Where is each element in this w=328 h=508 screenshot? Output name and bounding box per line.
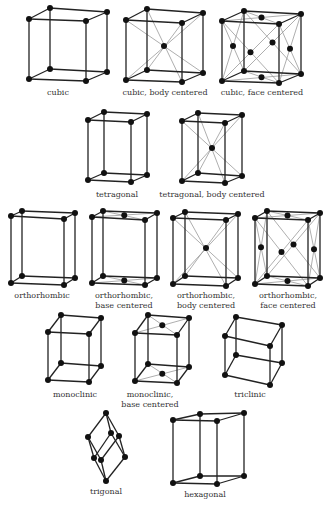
label-hexagonal: hexagonal <box>184 490 226 500</box>
lattice-point <box>72 275 78 281</box>
lattice-point <box>222 180 228 186</box>
lattice-point <box>122 454 128 460</box>
lattice-point <box>241 8 247 14</box>
lattice-point <box>145 312 151 318</box>
label-orthorhombic-base: orthorhombic,base centered <box>95 291 153 311</box>
lattice-point <box>305 283 311 289</box>
lattice-point <box>235 211 241 217</box>
lattice-point <box>128 119 134 125</box>
lattice-point <box>103 410 109 416</box>
label-cubic: cubic <box>47 88 69 98</box>
lattice-point <box>170 281 176 287</box>
lattice-point <box>104 69 110 75</box>
lattice-point <box>170 417 176 423</box>
lattice-point <box>8 280 14 286</box>
unit-cell-tetragonal-bcc <box>179 110 245 186</box>
lattice-point <box>270 40 276 46</box>
lattice-point <box>142 282 148 288</box>
lattice-point <box>276 21 282 27</box>
lattice-point <box>145 361 151 367</box>
lattice-point <box>86 331 92 337</box>
lattice-point <box>8 213 14 219</box>
lattice-point <box>222 372 228 378</box>
lattice-point <box>19 273 25 279</box>
lattice-point <box>142 217 148 223</box>
lattice-point <box>128 179 134 185</box>
lattice-point <box>267 343 273 349</box>
unit-cell-monoclinic <box>45 312 104 385</box>
lattice-point <box>154 210 160 216</box>
lattice-point <box>222 333 228 339</box>
lattice-point <box>298 71 304 77</box>
lattice-point <box>144 111 150 117</box>
lattice-point <box>264 208 270 214</box>
lattice-point <box>170 215 176 221</box>
unit-cell-orthorhombic-base <box>89 208 160 288</box>
lattice-point <box>98 457 104 463</box>
lattice-point <box>241 473 247 479</box>
lattice-point <box>235 275 241 281</box>
lattice-point <box>239 112 245 118</box>
lattice-point <box>298 11 304 17</box>
lattice-point <box>98 363 104 369</box>
label-orthorhombic-face: orthorhombic,face centered <box>259 291 317 311</box>
unit-cell-orthorhombic-face <box>252 208 323 289</box>
lattice-point <box>259 15 265 21</box>
lattice-point <box>154 275 160 281</box>
lattice-point <box>279 249 285 255</box>
lattice-point <box>276 80 282 86</box>
lattice-point <box>45 377 51 383</box>
unit-cell-orthorhombic <box>8 208 78 288</box>
lattice-point <box>317 275 323 281</box>
lattice-point <box>132 378 138 384</box>
unit-cell-cubic-fcc <box>219 8 304 86</box>
lattice-point <box>285 213 291 219</box>
lattice-point <box>100 273 106 279</box>
lattice-point <box>214 418 220 424</box>
lattice-point <box>179 20 185 26</box>
lattice-point <box>58 360 64 366</box>
lattice-point <box>85 117 91 123</box>
lattice-point <box>132 330 138 336</box>
lattice-point <box>100 208 106 214</box>
lattice-point <box>214 481 220 487</box>
lattice-point <box>279 360 285 366</box>
label-tetragonal: tetragonal <box>96 190 138 200</box>
unit-cell-cubic-bcc <box>123 6 206 85</box>
lattice-point <box>219 18 225 24</box>
lattice-point <box>123 17 129 23</box>
lattice-point <box>159 371 165 377</box>
lattice-point <box>144 6 150 12</box>
lattice-point <box>223 217 229 223</box>
lattice-point <box>144 67 150 73</box>
lattice-point <box>291 242 297 248</box>
lattice-point <box>45 329 51 335</box>
lattice-point <box>197 411 203 417</box>
bravais-lattice-diagram <box>0 0 328 508</box>
lattice-point <box>72 210 78 216</box>
lattice-point <box>248 49 254 55</box>
lattice-point <box>179 118 185 124</box>
lattice-point <box>174 380 180 386</box>
lattice-point <box>170 480 176 486</box>
label-monoclinic-base: monoclinic,base centered <box>121 390 178 410</box>
lattice-point <box>209 145 215 151</box>
unit-cell-orthorhombic-body <box>170 209 241 289</box>
lattice-point <box>85 177 91 183</box>
lattice-point <box>19 208 25 214</box>
lattice-point <box>26 76 32 82</box>
lattice-point <box>182 209 188 215</box>
label-triclinic: triclinic <box>234 390 265 400</box>
lattice-point <box>195 110 201 116</box>
lattice-point <box>195 170 201 176</box>
label-orthorhombic: orthorhombic <box>14 291 69 301</box>
lattice-point <box>279 322 285 328</box>
lattice-point <box>241 68 247 74</box>
label-monoclinic: monoclinic <box>53 390 97 400</box>
lattice-point <box>89 214 95 220</box>
lattice-point <box>264 273 270 279</box>
label-cubic-bcc: cubic, body centered <box>123 88 208 98</box>
lattice-point <box>103 478 109 484</box>
lattice-point <box>252 281 258 287</box>
lattice-point <box>233 352 239 358</box>
